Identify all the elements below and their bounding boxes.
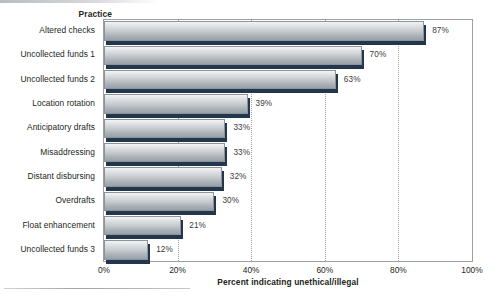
x-tick-label: 80%: [390, 265, 407, 275]
category-label: Uncollected funds 2: [0, 74, 99, 84]
bar-face: [104, 240, 148, 259]
bar-row: 21%: [104, 216, 472, 235]
bar-value-label: 70%: [370, 50, 387, 59]
bar[interactable]: [104, 94, 248, 113]
x-tick-label: 0%: [98, 265, 110, 275]
bar-face: [104, 119, 225, 138]
bar-face: [104, 94, 248, 113]
bar[interactable]: [104, 46, 362, 65]
bottom-rule-artifact: [4, 288, 190, 289]
bar-value-label: 12%: [156, 245, 173, 254]
bar-row: 63%: [104, 70, 472, 89]
bar[interactable]: [104, 119, 225, 138]
bar-row: 70%: [104, 46, 472, 65]
category-label: Distant disbursing: [0, 171, 99, 181]
bar-face: [104, 216, 181, 235]
category-label: Float enhancement: [0, 220, 99, 230]
x-tick-label: 60%: [316, 265, 333, 275]
bar-value-label: 87%: [432, 26, 449, 35]
plot-area: 87%70%63%39%33%33%32%30%21%12%: [103, 19, 473, 262]
bar-value-label: 32%: [230, 172, 247, 181]
x-tick-label: 40%: [243, 265, 260, 275]
bar-value-label: 33%: [233, 148, 250, 157]
bar-row: 12%: [104, 240, 472, 259]
bar-face: [104, 143, 225, 162]
bar-value-label: 30%: [222, 196, 239, 205]
category-axis-title: Practice: [60, 9, 112, 19]
category-label: Uncollected funds 3: [0, 244, 99, 254]
category-label: Overdrafts: [0, 195, 99, 205]
bar-value-label: 39%: [256, 99, 273, 108]
category-label: Altered checks: [0, 25, 99, 35]
bar-value-label: 21%: [189, 221, 206, 230]
x-axis-title: Percent indicating unethical/illegal: [103, 277, 473, 287]
bar-face: [104, 21, 424, 40]
bar[interactable]: [104, 216, 181, 235]
bar-face: [104, 167, 222, 186]
bar-row: 39%: [104, 94, 472, 113]
x-tick-label: 20%: [169, 265, 186, 275]
bar[interactable]: [104, 240, 148, 259]
category-label: Location rotation: [0, 98, 99, 108]
bar[interactable]: [104, 21, 424, 40]
gridline-100: [472, 20, 473, 261]
category-label: Uncollected funds 1: [0, 49, 99, 59]
category-axis-labels: Altered checksUncollected funds 1Uncolle…: [0, 19, 99, 262]
category-label: Anticipatory drafts: [0, 122, 99, 132]
bar[interactable]: [104, 143, 225, 162]
bar-row: 32%: [104, 167, 472, 186]
bar-row: 33%: [104, 143, 472, 162]
bar-series: 87%70%63%39%33%33%32%30%21%12%: [104, 20, 472, 261]
bar-face: [104, 46, 362, 65]
bar-row: 33%: [104, 119, 472, 138]
bar-value-label: 63%: [344, 75, 361, 84]
bar-value-label: 33%: [233, 123, 250, 132]
bar-face: [104, 192, 214, 211]
bar-row: 87%: [104, 21, 472, 40]
bar-face: [104, 70, 336, 89]
bar-row: 30%: [104, 192, 472, 211]
bar[interactable]: [104, 70, 336, 89]
bar[interactable]: [104, 192, 214, 211]
bar[interactable]: [104, 167, 222, 186]
x-tick-label: 100%: [461, 265, 482, 275]
category-label: Misaddressing: [0, 147, 99, 157]
horizontal-bar-chart: Practice Altered checksUncollected funds…: [0, 0, 497, 300]
